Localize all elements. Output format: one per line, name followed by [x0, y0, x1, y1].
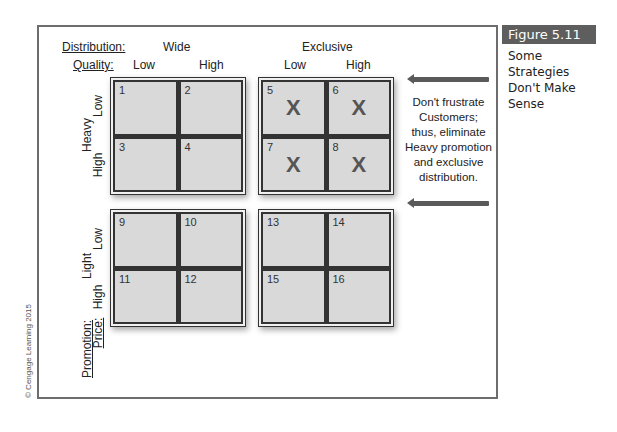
strategy-note: Don't frustrate Customers; thus, elimina… — [396, 95, 501, 185]
cell-8: 8X — [328, 138, 391, 192]
cell-number: 1 — [119, 84, 125, 96]
cell-7: 7X — [262, 138, 325, 192]
grid-light-exclusive: 13 14 15 16 — [258, 209, 394, 327]
cell-10: 10 — [180, 213, 243, 267]
grid-heavy-exclusive: 5X 6X 7X 8X — [258, 77, 394, 195]
note-line: Heavy promotion — [396, 140, 501, 155]
cell-6: 6X — [328, 81, 391, 135]
distribution-wide: Wide — [163, 40, 190, 54]
grid-light-wide: 9 10 11 12 — [110, 209, 246, 327]
cell-number: 2 — [185, 84, 191, 96]
cell-14: 14 — [328, 213, 391, 267]
cell-13: 13 — [262, 213, 325, 267]
x-mark-icon: X — [328, 95, 391, 121]
caption-line: Some — [508, 48, 608, 64]
cell-11: 11 — [114, 270, 177, 324]
cell-2: 2 — [180, 81, 243, 135]
cell-number: 14 — [333, 216, 345, 228]
price-heavy-high: High — [91, 145, 105, 185]
cell-number: 9 — [119, 216, 125, 228]
quality-exclusive-low: Low — [284, 58, 306, 72]
cell-number: 16 — [333, 273, 345, 285]
cell-1: 1 — [114, 81, 177, 135]
cell-number: 12 — [185, 273, 197, 285]
price-light-low: Low — [91, 219, 105, 259]
price-label: Price: — [91, 308, 105, 358]
cell-number: 3 — [119, 141, 125, 153]
price-heavy-low: Low — [91, 86, 105, 126]
quality-exclusive-high: High — [346, 58, 371, 72]
cell-15: 15 — [262, 270, 325, 324]
cell-5: 5X — [262, 81, 325, 135]
x-mark-icon: X — [262, 95, 325, 121]
arrow-left-icon — [413, 77, 489, 82]
caption-line: Sense — [508, 96, 608, 112]
note-line: Customers; — [396, 110, 501, 125]
cell-number: 15 — [267, 273, 279, 285]
cell-9: 9 — [114, 213, 177, 267]
distribution-label: Distribution: — [62, 40, 125, 54]
copyright-text: © Cengage Learning 2015 — [24, 304, 33, 398]
x-mark-icon: X — [328, 152, 391, 178]
figure-caption: Some Strategies Don't Make Sense — [508, 48, 608, 112]
quality-wide-low: Low — [133, 58, 155, 72]
cell-16: 16 — [328, 270, 391, 324]
note-line: Don't frustrate — [396, 95, 501, 110]
cell-3: 3 — [114, 138, 177, 192]
note-line: and exclusive — [396, 155, 501, 170]
caption-line: Strategies — [508, 64, 608, 80]
figure-label: Figure 5.11 — [502, 25, 596, 44]
note-line: thus, eliminate — [396, 125, 501, 140]
note-line: distribution. — [396, 170, 501, 185]
x-mark-icon: X — [262, 152, 325, 178]
cell-number: 10 — [185, 216, 197, 228]
cell-number: 4 — [185, 141, 191, 153]
cell-12: 12 — [180, 270, 243, 324]
cell-number: 13 — [267, 216, 279, 228]
quality-wide-high: High — [199, 58, 224, 72]
distribution-exclusive: Exclusive — [302, 40, 353, 54]
caption-line: Don't Make — [508, 80, 608, 96]
quality-label: Quality: — [73, 58, 114, 72]
cell-4: 4 — [180, 138, 243, 192]
cell-number: 11 — [119, 273, 130, 285]
arrow-left-icon — [413, 201, 489, 206]
grid-heavy-wide: 1 2 3 4 — [110, 77, 246, 195]
